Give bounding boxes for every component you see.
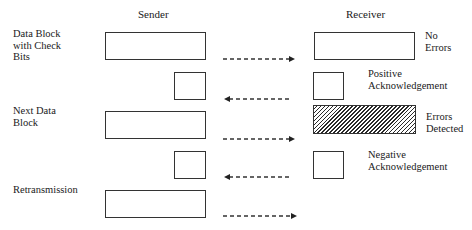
arrowhead-right-icon bbox=[291, 213, 297, 219]
arrowhead-right-icon bbox=[289, 136, 295, 142]
arrowhead-left-icon bbox=[224, 96, 230, 102]
arrowhead-left-icon bbox=[224, 174, 230, 180]
transmission-arrows bbox=[0, 0, 472, 230]
arrowhead-right-icon bbox=[289, 56, 295, 62]
